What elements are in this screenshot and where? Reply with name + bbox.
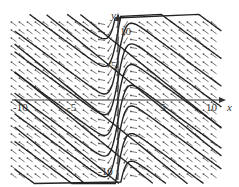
arrow-head-icon <box>179 69 181 71</box>
x-tick-10: 10 <box>206 101 218 113</box>
slope-arrow <box>43 102 48 106</box>
slope-arrow <box>83 62 88 66</box>
slope-arrow <box>187 22 192 26</box>
arrow-head-icon <box>59 45 61 47</box>
slope-arrow <box>91 46 96 49</box>
arrow-head-icon <box>27 21 29 23</box>
slope-arrow <box>19 30 24 34</box>
slope-arrow <box>75 62 80 66</box>
arrow-head-icon <box>155 69 157 71</box>
slope-arrow <box>51 70 56 74</box>
slope-arrow <box>59 54 64 58</box>
arrow-head-icon <box>171 29 173 31</box>
slope-arrow <box>11 158 16 162</box>
arrow-head-icon <box>187 77 189 79</box>
slope-arrow <box>59 70 64 74</box>
slope-arrow <box>75 142 80 146</box>
slope-arrow <box>187 78 192 82</box>
arrow-head-icon <box>27 37 29 39</box>
slope-arrow <box>99 151 105 152</box>
arrow-head-icon <box>155 85 157 87</box>
slope-arrow <box>139 22 144 25</box>
arrow-head-icon <box>90 69 92 71</box>
slope-arrow <box>211 174 216 178</box>
arrow-head-icon <box>123 106 125 108</box>
slope-arrow <box>139 118 144 121</box>
arrow-head-icon <box>203 29 205 31</box>
slope-arrow <box>203 166 208 170</box>
slope-arrow <box>203 38 208 42</box>
slope-arrow <box>27 174 32 178</box>
slope-arrow <box>11 46 16 50</box>
slope-arrow <box>195 94 200 98</box>
slope-arrow <box>179 134 184 138</box>
slope-arrow <box>171 126 176 130</box>
arrow-head-icon <box>83 37 85 39</box>
arrow-head-icon <box>163 117 165 119</box>
slope-arrow <box>155 134 160 138</box>
x-tick-neg10: -10 <box>13 101 28 113</box>
arrow-head-icon <box>98 127 100 129</box>
arrow-head-icon <box>75 61 77 63</box>
arrow-head-icon <box>130 175 132 177</box>
arrow-head-icon <box>107 122 109 124</box>
slope-arrow <box>187 86 192 90</box>
slope-arrow <box>27 30 32 34</box>
slope-arrow <box>83 38 88 42</box>
slope-arrow <box>43 62 48 66</box>
slope-arrow <box>43 158 48 162</box>
slope-arrow <box>147 134 152 138</box>
slope-arrow <box>139 150 144 153</box>
arrow-head-icon <box>67 173 69 175</box>
slope-arrow <box>187 134 192 138</box>
arrow-head-icon <box>59 141 61 143</box>
arrow-head-icon <box>83 29 85 31</box>
arrow-head-icon <box>59 157 61 159</box>
arrow-head-icon <box>155 93 157 95</box>
arrow-head-icon <box>59 53 61 55</box>
arrow-head-icon <box>179 37 181 39</box>
arrow-head-icon <box>90 173 92 175</box>
arrow-head-icon <box>138 85 140 87</box>
arrow-head-icon <box>35 165 37 167</box>
slope-arrow <box>83 70 88 74</box>
arrow-head-icon <box>11 45 13 47</box>
arrow-head-icon <box>90 53 92 55</box>
slope-arrow <box>75 134 80 138</box>
arrow-head-icon <box>163 77 165 79</box>
arrow-head-icon <box>163 141 165 143</box>
slope-arrow <box>83 110 88 114</box>
x-axis-label: x <box>226 101 232 113</box>
arrow-head-icon <box>203 85 205 87</box>
slope-arrow <box>131 127 137 128</box>
slope-arrow <box>35 94 40 98</box>
slope-arrow <box>147 158 152 162</box>
arrow-head-icon <box>203 21 205 23</box>
arrow-head-icon <box>171 45 173 47</box>
arrow-head-icon <box>163 53 165 55</box>
slope-arrow <box>11 38 16 42</box>
arrow-head-icon <box>27 133 29 135</box>
slope-arrow <box>187 110 192 114</box>
slope-arrow <box>179 62 184 66</box>
arrow-head-icon <box>195 101 197 103</box>
slope-arrow <box>131 143 137 144</box>
slope-arrow <box>99 127 105 128</box>
slope-arrow <box>91 174 96 177</box>
slope-arrow <box>195 62 200 66</box>
arrow-head-icon <box>147 21 149 23</box>
slope-arrow <box>179 46 184 50</box>
slope-arrow <box>203 174 208 178</box>
arrow-head-icon <box>195 125 197 127</box>
slope-arrow <box>43 166 48 170</box>
arrow-head-icon <box>211 85 213 87</box>
slope-arrow <box>51 46 56 50</box>
slope-arrow <box>19 158 24 162</box>
slope-arrow <box>99 103 105 104</box>
arrow-head-icon <box>130 39 132 41</box>
slope-arrow <box>147 110 152 114</box>
slope-arrow <box>75 102 80 106</box>
slope-arrow <box>91 78 96 81</box>
slope-arrow <box>91 118 96 121</box>
slope-arrow <box>83 150 88 154</box>
